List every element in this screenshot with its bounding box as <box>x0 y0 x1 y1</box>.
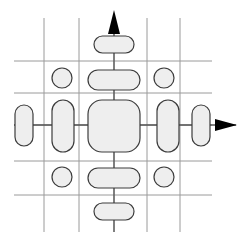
circle-top-left <box>52 68 72 88</box>
capsule-down-inner <box>88 168 140 188</box>
capsule-up-inner <box>88 70 140 90</box>
figure-root <box>0 0 243 246</box>
center-rounded-square <box>88 100 140 152</box>
circle-top-right <box>154 68 174 88</box>
capsule-left-inner <box>52 100 74 152</box>
capsule-down-outer <box>94 203 134 220</box>
lattice-diagram <box>0 0 243 246</box>
circle-bottom-right <box>154 167 174 187</box>
capsule-left-outer <box>15 105 33 146</box>
capsule-up-outer <box>94 36 134 53</box>
capsule-right-inner <box>157 100 179 152</box>
capsule-right-outer <box>192 105 210 146</box>
circle-bottom-left <box>52 167 72 187</box>
